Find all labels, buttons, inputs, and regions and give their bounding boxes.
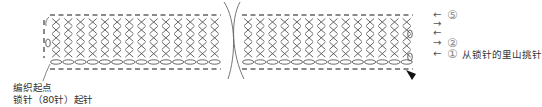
- chain-start-label: 锁针（80针）起针: [13, 95, 93, 105]
- arrow-left-icon: ←: [433, 49, 441, 59]
- arrow-right-icon: →: [433, 38, 441, 48]
- start-point-label: 编织起点: [13, 83, 52, 93]
- row-1-note: 从锁针的里山挑针: [462, 50, 542, 60]
- stitch-grid: [43, 0, 416, 81]
- row-number-5: ⑤: [447, 9, 458, 21]
- row-number-1: ①: [447, 48, 458, 60]
